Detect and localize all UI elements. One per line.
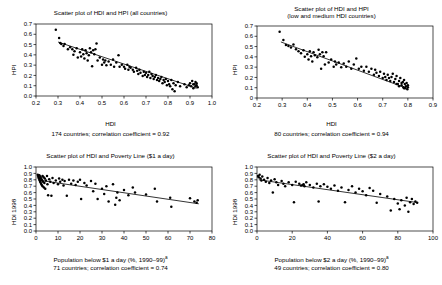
- panel-hdi-hpi-all: Scatter plot of HDI and HPI (all countri…: [0, 0, 221, 143]
- svg-text:0.9: 0.9: [186, 100, 195, 106]
- plot-area: 010203040506070800.00.10.20.30.40.50.60.…: [0, 161, 221, 257]
- svg-text:0.8: 0.8: [245, 177, 254, 183]
- svg-text:80: 80: [209, 235, 216, 241]
- svg-text:30: 30: [99, 235, 106, 241]
- svg-text:0.2: 0.2: [253, 102, 262, 108]
- panel-caption: 80 countries; correlation coefficient = …: [221, 130, 442, 138]
- svg-text:100: 100: [428, 235, 439, 241]
- svg-text:0: 0: [34, 235, 38, 241]
- svg-text:0.9: 0.9: [24, 171, 33, 177]
- svg-text:1.0: 1.0: [24, 164, 33, 170]
- svg-text:0.0: 0.0: [245, 228, 254, 234]
- plot-area: 0204060801000.00.10.20.30.40.50.60.70.80…: [221, 161, 442, 257]
- svg-text:60: 60: [359, 235, 366, 241]
- scatter-svg: 010203040506070800.00.10.20.30.40.50.60.…: [0, 161, 221, 253]
- svg-text:0.2: 0.2: [24, 73, 33, 79]
- svg-text:0.5: 0.5: [24, 196, 33, 202]
- svg-text:0.5: 0.5: [245, 44, 254, 50]
- x-axis-label: HDI: [0, 120, 221, 127]
- y-axis-label: HDI 1998: [10, 199, 17, 225]
- svg-text:40: 40: [324, 235, 331, 241]
- svg-text:0.6: 0.6: [120, 100, 129, 106]
- svg-text:0.7: 0.7: [245, 183, 254, 189]
- svg-text:0.2: 0.2: [32, 100, 41, 106]
- svg-text:0: 0: [250, 95, 254, 101]
- svg-text:1.0: 1.0: [208, 100, 217, 106]
- svg-text:0.1: 0.1: [245, 85, 254, 91]
- panel-caption: 174 countries; correlation coefficient =…: [0, 130, 221, 138]
- svg-text:0.3: 0.3: [245, 64, 254, 70]
- x-axis-label: Population below $1 a day (%, 1990–99)a: [0, 255, 221, 263]
- svg-text:0.6: 0.6: [24, 190, 33, 196]
- svg-text:0.7: 0.7: [379, 102, 388, 108]
- panel-title: Scatter plot of HDI and HPI (low and med…: [221, 5, 442, 19]
- svg-text:0.1: 0.1: [245, 222, 254, 228]
- svg-text:0.4: 0.4: [24, 52, 33, 58]
- caption-text: 174 countries; correlation coefficient =…: [51, 130, 169, 137]
- svg-text:0.6: 0.6: [24, 31, 33, 37]
- caption-text: 80 countries; correlation coefficient = …: [274, 130, 389, 137]
- svg-text:1.0: 1.0: [245, 164, 254, 170]
- svg-text:0.8: 0.8: [164, 100, 173, 106]
- svg-text:0.3: 0.3: [54, 100, 63, 106]
- svg-text:0.4: 0.4: [245, 54, 254, 60]
- svg-text:50: 50: [143, 235, 150, 241]
- svg-text:0.6: 0.6: [353, 102, 362, 108]
- caption-text: 71 countries; correlation coefficient = …: [53, 264, 168, 271]
- panel-title: Scatter plot of HDI and Poverty Line ($2…: [221, 152, 442, 159]
- svg-text:0.9: 0.9: [429, 102, 438, 108]
- svg-text:0.3: 0.3: [278, 102, 287, 108]
- svg-text:80: 80: [394, 235, 401, 241]
- svg-text:0.4: 0.4: [245, 203, 254, 209]
- svg-text:0.5: 0.5: [245, 196, 254, 202]
- y-axis-label: HPI: [231, 65, 238, 75]
- svg-text:60: 60: [165, 235, 172, 241]
- x-axis-label: HDI: [221, 120, 442, 127]
- plot-area: 0.20.30.40.50.60.70.80.91.00.00.10.20.30…: [0, 18, 221, 122]
- svg-text:70: 70: [187, 235, 194, 241]
- svg-text:0.5: 0.5: [24, 42, 33, 48]
- svg-text:0: 0: [255, 235, 259, 241]
- y-axis-label: HDI 1998: [231, 199, 238, 225]
- scatter-svg: 0.20.30.40.50.60.70.80.900.10.20.30.40.5…: [221, 20, 442, 118]
- panel-hdi-poverty-1dollar: Scatter plot of HDI and Poverty Line ($1…: [0, 143, 221, 285]
- svg-text:0.0: 0.0: [24, 228, 33, 234]
- svg-text:0.4: 0.4: [303, 102, 312, 108]
- scatter-svg: 0204060801000.00.10.20.30.40.50.60.70.80…: [221, 161, 442, 253]
- panel-caption: 49 countries; correlation coefficient = …: [221, 264, 442, 272]
- svg-text:0.7: 0.7: [24, 183, 33, 189]
- x-axis-label: Population below $2 a day (%, 1990–99)a: [221, 255, 442, 263]
- y-axis-label: HPI: [10, 65, 17, 75]
- svg-text:0.8: 0.8: [404, 102, 413, 108]
- svg-text:0.9: 0.9: [245, 171, 254, 177]
- svg-text:0.4: 0.4: [76, 100, 85, 106]
- svg-text:0.7: 0.7: [245, 23, 254, 29]
- svg-text:0.7: 0.7: [24, 21, 33, 27]
- panel-caption: 71 countries; correlation coefficient = …: [0, 264, 221, 272]
- svg-text:0.6: 0.6: [245, 190, 254, 196]
- svg-text:0.7: 0.7: [142, 100, 151, 106]
- svg-text:0.2: 0.2: [245, 75, 254, 81]
- x-axis-label-text: Population below $2 a day (%, 1990–99): [274, 256, 385, 263]
- figure-grid: Scatter plot of HDI and HPI (all countri…: [0, 0, 442, 285]
- svg-text:0.3: 0.3: [24, 62, 33, 68]
- svg-text:0.2: 0.2: [24, 215, 33, 221]
- footnote-marker: a: [165, 255, 168, 260]
- svg-text:0.3: 0.3: [245, 209, 254, 215]
- panel-title: Scatter plot of HDI and Poverty Line ($1…: [0, 152, 221, 159]
- panel-hdi-poverty-2dollar: Scatter plot of HDI and Poverty Line ($2…: [221, 143, 442, 285]
- svg-text:0.1: 0.1: [24, 83, 33, 89]
- svg-text:0.1: 0.1: [24, 222, 33, 228]
- svg-text:0.8: 0.8: [24, 177, 33, 183]
- footnote-marker: a: [386, 255, 389, 260]
- svg-text:0.3: 0.3: [24, 209, 33, 215]
- caption-text: 49 countries; correlation coefficient = …: [274, 264, 389, 271]
- svg-text:20: 20: [77, 235, 84, 241]
- svg-text:40: 40: [121, 235, 128, 241]
- panel-title: Scatter plot of HDI and HPI (all countri…: [0, 9, 221, 16]
- scatter-svg: 0.20.30.40.50.60.70.80.91.00.00.10.20.30…: [0, 18, 221, 118]
- x-axis-label-text: Population below $1 a day (%, 1990–99): [53, 256, 164, 263]
- panel-hdi-hpi-low-medium: Scatter plot of HDI and HPI (low and med…: [221, 0, 442, 143]
- svg-text:10: 10: [55, 235, 62, 241]
- svg-text:0.5: 0.5: [328, 102, 337, 108]
